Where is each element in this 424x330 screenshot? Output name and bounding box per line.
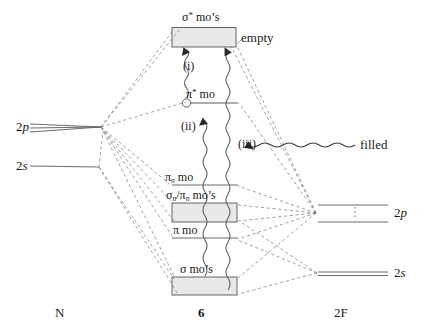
correlation-lines-left-2p xyxy=(101,29,186,278)
fragment-label-center: 6 xyxy=(198,306,205,319)
correlation-lines-right-2p xyxy=(231,46,316,278)
annotation-transition-i: (i) xyxy=(183,60,194,72)
correlation-lines-left-2s xyxy=(99,131,178,294)
left-level-2s-label: 2s xyxy=(16,159,28,172)
annotation-filled: filled xyxy=(360,138,387,151)
level-label-sigma-star-mos: σ* mo’s xyxy=(182,11,219,23)
level-box-sigma xyxy=(172,277,237,295)
level-label-sigma-mos: σ mo’s xyxy=(180,263,213,275)
fragment-label-right: 2F xyxy=(334,306,348,319)
right-level-2s xyxy=(318,272,388,276)
level-label-sigma-n-pi-n-mos: σn/πn mo’s xyxy=(166,189,216,203)
annotation-transition-ii: (ii) xyxy=(181,120,196,132)
transition-arrow-iii xyxy=(226,54,230,290)
right-level-2s-label: 2s xyxy=(394,266,406,279)
right-level-2p xyxy=(318,205,388,222)
level-label-pi-n-mo: πn mo xyxy=(165,171,193,185)
left-level-2p-label: 2p xyxy=(16,120,29,133)
annotation-empty: empty xyxy=(241,31,274,44)
right-level-2p-label: 2p xyxy=(394,206,407,219)
annotation-transition-iii: (iii) xyxy=(238,138,256,150)
left-level-2p xyxy=(30,124,101,132)
level-box-sigma-star xyxy=(172,28,236,48)
level-label-pi-star-mo: π* mo xyxy=(186,88,215,100)
filled-pointer-arrow xyxy=(247,143,355,147)
left-level-2s xyxy=(30,166,99,167)
mo-diagram-figure: 2p 2s 2p 2s σ* mo’s π* mo πn mo σn/πn mo… xyxy=(0,0,424,330)
correlation-lines-right-2s xyxy=(238,222,317,294)
fragment-label-left: N xyxy=(55,306,64,319)
level-label-pi-mo: π mo xyxy=(173,224,197,236)
mo-diagram-canvas xyxy=(0,0,424,330)
